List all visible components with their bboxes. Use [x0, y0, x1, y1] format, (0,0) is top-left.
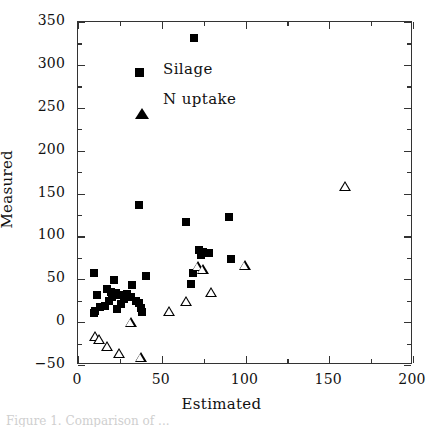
y-axis-tick: [404, 22, 411, 23]
y-axis-minor-tick: [78, 258, 82, 259]
data-point-n-uptake: [101, 341, 113, 351]
y-axis-tick: [404, 194, 411, 195]
data-point-silage: [197, 251, 205, 259]
data-point-silage: [90, 309, 98, 317]
x-axis-tick: [78, 22, 79, 29]
y-axis-tick-label: 300: [0, 55, 65, 71]
x-axis-minor-tick: [371, 22, 372, 26]
y-axis-tick-label: 150: [0, 184, 65, 200]
y-axis-tick: [404, 108, 411, 109]
data-point-silage: [182, 218, 190, 226]
data-point-silage: [135, 201, 143, 209]
x-axis-minor-tick: [120, 359, 121, 363]
y-axis-tick: [78, 365, 85, 366]
x-axis-title: Estimated: [0, 395, 443, 413]
scatter-plot-figure: Measured Estimated −50050100150200250300…: [0, 0, 443, 427]
data-point-n-uptake: [205, 287, 217, 297]
y-axis-tick-label: 0: [0, 312, 65, 328]
data-point-silage: [110, 276, 118, 284]
x-axis-tick-label: 150: [298, 371, 358, 387]
data-point-n-uptake: [113, 348, 125, 358]
y-axis-tick: [404, 65, 411, 66]
y-axis-minor-tick: [78, 215, 82, 216]
y-axis-minor-tick: [407, 301, 411, 302]
x-axis-tick-label: 200: [382, 371, 442, 387]
open-triangle-icon: [135, 89, 149, 119]
x-axis-minor-tick: [120, 22, 121, 26]
data-point-silage: [190, 34, 198, 42]
plot-area: [77, 21, 412, 364]
x-axis-tick: [162, 22, 163, 29]
legend: Silage N uptake: [135, 60, 149, 120]
data-point-silage: [128, 281, 136, 289]
x-axis-minor-tick: [287, 22, 288, 26]
y-axis-tick: [404, 236, 411, 237]
data-point-silage: [120, 295, 128, 303]
y-axis-tick: [78, 194, 85, 195]
x-axis-tick: [246, 356, 247, 363]
data-point-n-uptake: [135, 352, 147, 362]
y-axis-tick-label: 50: [0, 269, 65, 285]
data-point-n-uptake: [163, 306, 175, 316]
data-point-silage: [205, 249, 213, 257]
x-axis-tick-label: 0: [47, 371, 107, 387]
y-axis-tick: [78, 151, 85, 152]
x-axis-tick-label: 50: [131, 371, 191, 387]
y-axis-tick: [404, 151, 411, 152]
figure-caption: Figure 1. Comparison of ...: [6, 414, 170, 427]
y-axis-tick: [78, 65, 85, 66]
y-axis-tick-label: 350: [0, 12, 65, 28]
filled-square-icon: [135, 68, 144, 77]
y-axis-minor-tick: [78, 86, 82, 87]
x-axis-minor-tick: [204, 359, 205, 363]
data-point-n-uptake: [239, 260, 251, 270]
y-axis-tick-label: −50: [0, 355, 65, 371]
x-axis-tick: [329, 22, 330, 29]
legend-label: N uptake: [163, 90, 236, 108]
data-point-silage: [138, 308, 146, 316]
x-axis-tick: [78, 356, 79, 363]
y-axis-tick: [78, 322, 85, 323]
x-axis-tick: [246, 22, 247, 29]
data-point-silage: [93, 291, 101, 299]
y-axis-minor-tick: [78, 344, 82, 345]
data-point-silage: [142, 272, 150, 280]
x-axis-tick: [413, 356, 414, 363]
x-axis-tick: [413, 22, 414, 29]
y-axis-minor-tick: [407, 258, 411, 259]
y-axis-minor-tick: [407, 129, 411, 130]
y-axis-minor-tick: [78, 43, 82, 44]
data-point-n-uptake: [125, 317, 137, 327]
x-axis-minor-tick: [204, 22, 205, 26]
y-axis-tick-label: 250: [0, 98, 65, 114]
y-axis-tick: [404, 322, 411, 323]
data-point-silage: [227, 255, 235, 263]
data-point-n-uptake: [339, 181, 351, 191]
y-axis-minor-tick: [78, 172, 82, 173]
y-axis-minor-tick: [407, 172, 411, 173]
y-axis-tick: [404, 365, 411, 366]
legend-item-n-uptake: N uptake: [135, 90, 149, 120]
x-axis-minor-tick: [287, 359, 288, 363]
data-point-n-uptake: [180, 296, 192, 306]
x-axis-tick: [162, 356, 163, 363]
y-axis-tick: [404, 279, 411, 280]
y-axis-tick: [78, 236, 85, 237]
x-axis-tick: [329, 356, 330, 363]
y-axis-minor-tick: [78, 301, 82, 302]
y-axis-tick-label: 200: [0, 141, 65, 157]
y-axis-minor-tick: [407, 344, 411, 345]
data-point-silage: [187, 280, 195, 288]
data-point-n-uptake: [197, 264, 209, 274]
y-axis-minor-tick: [407, 43, 411, 44]
y-axis-tick: [78, 108, 85, 109]
x-axis-minor-tick: [371, 359, 372, 363]
legend-item-silage: Silage: [135, 60, 149, 90]
legend-label: Silage: [163, 60, 213, 78]
data-point-silage: [90, 269, 98, 277]
data-point-silage: [225, 213, 233, 221]
y-axis-minor-tick: [407, 86, 411, 87]
y-axis-minor-tick: [78, 129, 82, 130]
x-axis-tick-label: 100: [215, 371, 275, 387]
y-axis-minor-tick: [407, 215, 411, 216]
